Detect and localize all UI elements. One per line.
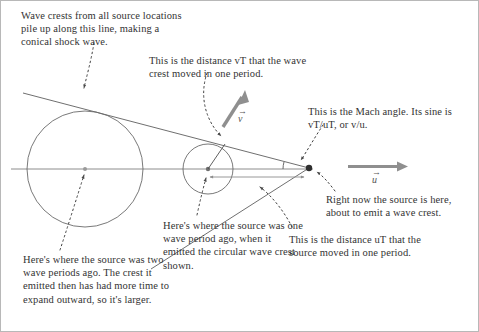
mach-cone-upper-line (23, 93, 309, 168)
caption-source-one-period-ago: Here's where the source was one wave per… (163, 219, 303, 272)
pointer-to-source-two-periods-ago (60, 175, 84, 250)
pointer-to-source-now (317, 172, 335, 191)
pointer-to-source-one-period-ago (197, 178, 206, 215)
caption-shock-line: Wave crests from all source locations pi… (21, 9, 186, 49)
caption-distance-ut: This is the distance uT that the source … (289, 233, 444, 259)
pointer-to-shock-line (84, 43, 94, 88)
mach-angle-arc (283, 162, 284, 169)
caption-mach-angle: This is the Mach angle. Its sine is vT/u… (308, 105, 470, 131)
physics-diagram-figure: Wave crests from all source locations pi… (0, 0, 479, 332)
caption-source-now: Right now the source is here, about to e… (326, 193, 476, 219)
caption-distance-vt: This is the distance vT that the wave cr… (149, 54, 319, 80)
vt-radius-segment (208, 144, 225, 169)
vector-label-v: → v (238, 109, 247, 124)
pointer-to-vt-radius (204, 73, 221, 136)
caption-source-two-periods-ago: Here's where the source was two wave per… (23, 253, 183, 306)
vector-u-symbol: u (372, 174, 377, 185)
source-now-dot (306, 165, 312, 171)
vector-label-u: → u (372, 170, 381, 185)
source-two-periods-ago-dot (83, 167, 87, 171)
vector-v-symbol: v (238, 113, 242, 124)
